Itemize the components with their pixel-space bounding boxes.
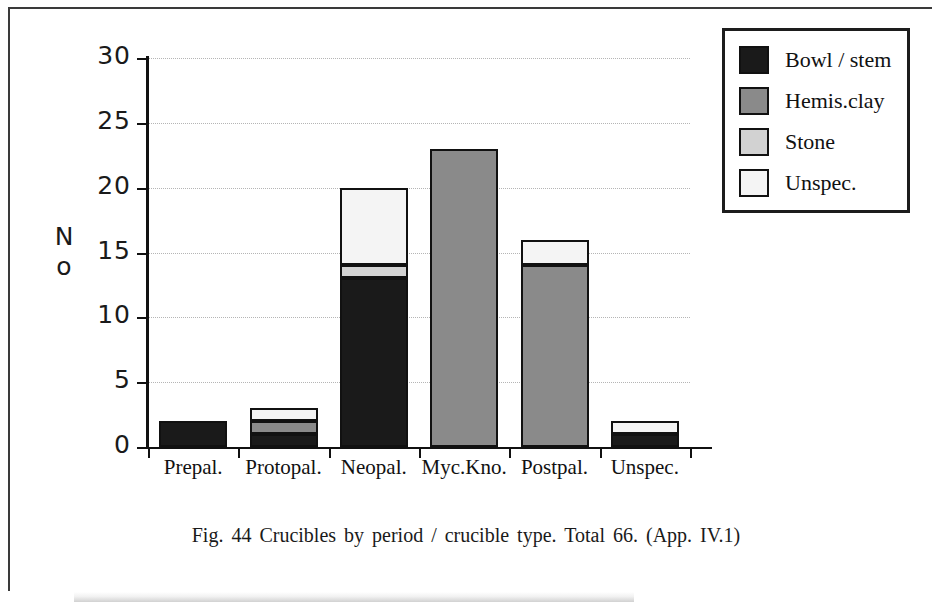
bar-protopal[interactable]: [250, 58, 318, 447]
y-axis-tick: [137, 123, 146, 125]
legend: Bowl / stemHemis.clayStoneUnspec.: [722, 28, 910, 213]
bar-segment: [250, 421, 318, 434]
bar-segment: [521, 265, 589, 447]
legend-swatch-icon: [739, 128, 769, 156]
gridline: [148, 123, 690, 124]
bar-segment: [159, 421, 227, 447]
y-axis-tick-label: 0: [85, 430, 131, 459]
x-axis-tick-label: Unspec.: [600, 455, 690, 480]
y-axis-tick: [137, 317, 146, 319]
y-axis-tick-label: 10: [85, 300, 131, 329]
x-axis-tick-label: Neopal.: [329, 455, 419, 480]
y-axis-tick-label: 25: [85, 106, 131, 135]
y-axis-tick: [137, 382, 146, 384]
bar-postpal[interactable]: [521, 58, 589, 447]
y-axis-tick-label: 15: [85, 236, 131, 265]
y-axis-tick-labels: 051015202530: [36, 0, 131, 602]
figure-caption: Fig. 44 Crucibles by period / crucible t…: [0, 524, 932, 547]
bar-segment: [340, 278, 408, 447]
legend-swatch-icon: [739, 87, 769, 115]
y-axis-line: [146, 56, 149, 449]
bar-unspec[interactable]: [611, 58, 679, 447]
y-axis-tick: [137, 253, 146, 255]
x-axis-tick: [690, 447, 692, 458]
legend-item[interactable]: Bowl / stem: [739, 43, 891, 77]
figure-caption-text: Fig. 44 Crucibles by period / crucible t…: [192, 524, 741, 546]
legend-item[interactable]: Stone: [739, 125, 835, 159]
x-axis-line: [146, 447, 712, 449]
gridline: [148, 58, 690, 59]
gridline: [148, 317, 690, 318]
bar-segment: [250, 408, 318, 421]
legend-item-label: Unspec.: [785, 170, 856, 196]
y-axis-tick-label: 20: [85, 171, 131, 200]
bar-segment: [611, 421, 679, 434]
bar-segment: [250, 434, 318, 447]
x-axis-tick-label: Protopal.: [238, 455, 328, 480]
bar-prepal[interactable]: [159, 58, 227, 447]
y-axis-tick: [137, 447, 146, 449]
gridline: [148, 188, 690, 189]
legend-item-label: Stone: [785, 129, 835, 155]
bar-segment: [340, 188, 408, 266]
legend-swatch-icon: [739, 46, 769, 74]
gridline: [148, 382, 690, 383]
legend-item[interactable]: Unspec.: [739, 166, 856, 200]
legend-item-label: Bowl / stem: [785, 47, 891, 73]
bar-myckno[interactable]: [430, 58, 498, 447]
legend-item[interactable]: Hemis.clay: [739, 84, 885, 118]
bar-segment: [521, 240, 589, 266]
bar-neopal[interactable]: [340, 58, 408, 447]
bar-segment: [430, 149, 498, 447]
plot-area: [148, 58, 690, 447]
gridline: [148, 253, 690, 254]
legend-item-label: Hemis.clay: [785, 88, 885, 114]
y-axis-tick-label: 5: [85, 365, 131, 394]
bar-segment: [340, 265, 408, 278]
y-axis-tick: [137, 188, 146, 190]
x-axis-tick-label: Myc.Kno.: [419, 455, 509, 480]
y-axis-tick-label: 30: [85, 41, 131, 70]
legend-swatch-icon: [739, 169, 769, 197]
bar-segment: [611, 434, 679, 447]
x-axis-tick-label: Prepal.: [148, 455, 238, 480]
y-axis-tick: [137, 58, 146, 60]
x-axis-tick-label: Postpal.: [509, 455, 599, 480]
